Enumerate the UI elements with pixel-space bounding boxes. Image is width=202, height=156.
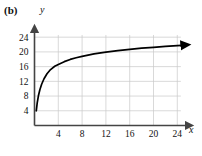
y-tick-label: 12 [19, 77, 29, 87]
y-tick-label: 16 [19, 62, 29, 72]
gridlines [35, 35, 181, 126]
y-tick-label: 20 [19, 47, 29, 57]
plot-area: 4812162024 4812162024 [0, 0, 202, 156]
y-tick-label: 8 [24, 91, 29, 101]
x-tick-label: 12 [101, 129, 111, 139]
x-tick-label: 20 [149, 129, 159, 139]
y-tick-label: 4 [24, 106, 29, 116]
figure-panel: (b) y x 4812162024 4812162024 [0, 0, 202, 156]
x-tick-label: 4 [56, 129, 61, 139]
x-tick-label: 24 [173, 129, 183, 139]
y-tick-labels: 4812162024 [19, 33, 29, 117]
x-tick-label: 16 [125, 129, 135, 139]
x-tick-labels: 4812162024 [56, 129, 182, 139]
y-tick-label: 24 [19, 33, 29, 43]
x-tick-label: 8 [80, 129, 85, 139]
